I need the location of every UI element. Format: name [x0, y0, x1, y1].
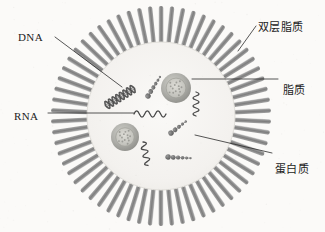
label-lipid-bilayer: 双层脂质	[258, 18, 304, 34]
label-lipid: 脂质	[283, 81, 306, 97]
lipid-nanoparticle-diagram	[0, 0, 325, 232]
label-rna: RNA	[14, 110, 38, 122]
label-dna: DNA	[18, 31, 43, 43]
label-protein: 蛋白质	[275, 160, 309, 176]
